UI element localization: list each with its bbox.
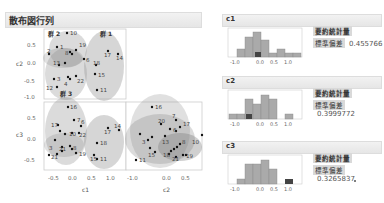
summary-header: 要約統計量 xyxy=(313,88,352,98)
stat-label: 標準偏差 xyxy=(313,165,345,175)
stat-value: 0.455766 xyxy=(349,40,382,48)
tick: 0.5 xyxy=(87,175,96,181)
tick: 0.0 xyxy=(27,60,36,66)
svg-text:11: 11 xyxy=(100,87,107,93)
tick: 0.5 xyxy=(181,175,190,181)
summary-header: 要約統計量 xyxy=(313,153,352,163)
scatter-matrix-title: 散布図行列 xyxy=(9,14,54,27)
svg-text:18: 18 xyxy=(93,60,100,66)
svg-text:16: 16 xyxy=(155,104,162,110)
svg-text:10: 10 xyxy=(69,131,76,137)
svg-text:0.5: 0.5 xyxy=(270,59,278,65)
svg-text:11: 11 xyxy=(100,156,107,162)
tick: 0.5 xyxy=(27,115,36,121)
svg-text:1: 1 xyxy=(60,44,64,50)
svg-text:19: 19 xyxy=(79,151,86,157)
summary-header: 要約統計量 xyxy=(313,26,352,36)
tick: 1.0 xyxy=(106,175,115,181)
svg-text:6: 6 xyxy=(86,57,90,63)
svg-text:3: 3 xyxy=(142,139,146,145)
stat-label: 標準偏差 xyxy=(313,38,345,48)
svg-text:17: 17 xyxy=(183,121,190,127)
svg-text:12: 12 xyxy=(46,85,53,91)
svg-text:15: 15 xyxy=(148,152,155,158)
svg-text:19: 19 xyxy=(79,42,86,48)
histogram-c2: -1.00.0 0.51.0 xyxy=(222,89,304,127)
svg-text:10: 10 xyxy=(192,139,199,145)
svg-text:1.0: 1.0 xyxy=(284,59,292,65)
svg-text:0.0: 0.0 xyxy=(256,59,264,65)
svg-text:17: 17 xyxy=(104,52,111,58)
tick: 0.0 xyxy=(27,136,36,142)
hist-c1-title: c1 xyxy=(226,15,235,23)
svg-text:8: 8 xyxy=(73,145,77,151)
tick: 0.5 xyxy=(27,42,36,48)
svg-text:0.5: 0.5 xyxy=(270,121,278,127)
stats-c3: 要約統計量 標準偏差0.3265837 xyxy=(313,153,384,183)
svg-text:-1.0: -1.0 xyxy=(230,59,240,65)
tick: 0.0 xyxy=(162,175,171,181)
svg-text:3: 3 xyxy=(57,76,61,82)
svg-text:20: 20 xyxy=(158,118,165,124)
svg-text:-1.0: -1.0 xyxy=(230,121,240,127)
svg-text:21: 21 xyxy=(172,156,179,162)
svg-text:1.0: 1.0 xyxy=(284,121,292,127)
scatter-matrix-title-bar[interactable]: 散布図行列 xyxy=(5,12,202,28)
scatter-matrix: c2 c3 0.5 0.0 -0.5 -1.0 0.5 0.0 -0.5 群 2… xyxy=(0,27,205,203)
svg-text:14: 14 xyxy=(114,123,121,129)
tick: -0.5 xyxy=(48,175,59,181)
svg-text:1.0: 1.0 xyxy=(284,186,292,192)
svg-text:16: 16 xyxy=(70,104,77,110)
resize-handle-icon[interactable] xyxy=(354,180,356,182)
svg-text:0.0: 0.0 xyxy=(256,121,264,127)
svg-text:18: 18 xyxy=(100,140,107,146)
tick: -0.5 xyxy=(24,78,35,84)
hist-c2-title: c2 xyxy=(226,77,235,85)
y-axis-label-c2: c2 xyxy=(16,60,23,67)
svg-text:19: 19 xyxy=(186,153,193,159)
svg-text:13: 13 xyxy=(162,139,169,145)
svg-text:8: 8 xyxy=(182,139,186,145)
svg-text:15: 15 xyxy=(98,72,105,78)
group-2-label: 群 2 xyxy=(47,30,60,38)
svg-text:0.0: 0.0 xyxy=(256,186,264,192)
stat-value: 0.3265837 xyxy=(317,175,355,183)
svg-text:13: 13 xyxy=(53,60,60,66)
hist-c3-title: c3 xyxy=(226,142,235,150)
svg-text:17: 17 xyxy=(104,129,111,135)
svg-text:22: 22 xyxy=(79,132,86,138)
svg-text:14: 14 xyxy=(116,55,123,61)
svg-text:6: 6 xyxy=(173,127,177,133)
histogram-c1: -1.00.0 0.51.0 xyxy=(222,27,304,65)
svg-text:4: 4 xyxy=(64,81,68,87)
x-axis-label-c2: c2 xyxy=(163,186,170,193)
tick: 0.0 xyxy=(68,175,77,181)
stats-c1: 要約統計量 標準偏差0.455766 xyxy=(313,26,382,48)
svg-text:17: 17 xyxy=(51,122,58,128)
svg-text:10: 10 xyxy=(70,30,77,36)
stat-value: 0.3999772 xyxy=(317,110,355,118)
svg-text:2: 2 xyxy=(47,48,51,54)
svg-text:3: 3 xyxy=(49,145,53,151)
svg-text:0.5: 0.5 xyxy=(270,186,278,192)
group-1-label: 群 1 xyxy=(99,30,112,38)
y-axis-label-c3: c3 xyxy=(16,131,23,138)
tick: -1.0 xyxy=(127,175,138,181)
svg-text:7: 7 xyxy=(172,113,176,119)
tick: -1.0 xyxy=(24,94,35,100)
svg-text:-1.0: -1.0 xyxy=(230,186,240,192)
histogram-c3: -1.00.0 0.51.0 xyxy=(222,154,304,192)
x-axis-label-c1: c1 xyxy=(82,186,89,193)
stat-label: 標準偏差 xyxy=(313,100,345,110)
group-3-label: 群 3 xyxy=(59,90,72,98)
svg-text:22: 22 xyxy=(77,78,84,84)
svg-text:18: 18 xyxy=(163,152,170,158)
tick: -0.5 xyxy=(24,157,35,163)
stats-c2: 要約統計量 標準偏差0.3999772 xyxy=(313,88,384,118)
svg-text:6: 6 xyxy=(81,119,85,125)
svg-text:11: 11 xyxy=(139,157,146,163)
svg-text:8: 8 xyxy=(65,50,69,56)
